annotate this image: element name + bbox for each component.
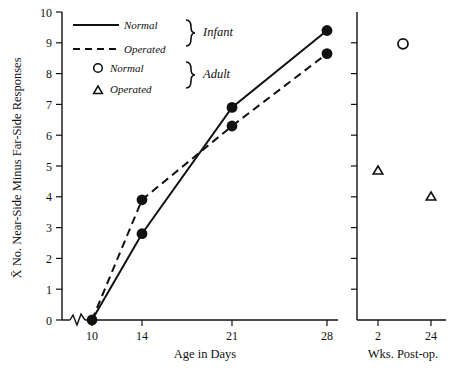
- legend-label: Operated: [110, 83, 152, 95]
- x-tick-label: 2: [375, 329, 381, 343]
- data-point: [137, 228, 148, 239]
- legend-open-circle-icon: [94, 64, 103, 73]
- data-point: [322, 48, 333, 59]
- data-point-adult-normal: [398, 39, 408, 49]
- x-tick-label: 28: [321, 329, 333, 343]
- right-panel-axes: [357, 12, 446, 320]
- x-tick-label: 24: [425, 329, 437, 343]
- data-point: [227, 121, 238, 132]
- legend-label: Normal: [123, 19, 158, 31]
- y-axis-title: X̄ No. Near-Side Minus Far-Side Response…: [10, 57, 24, 278]
- x-axis-title: Age in Days: [174, 347, 237, 361]
- chart-canvas: 10 9 8 7 6 5 4 3 2 1 0 10 14 21 28: [0, 0, 453, 370]
- x-axis-ticks: [92, 320, 327, 326]
- y-tick-label: 6: [46, 129, 52, 143]
- data-point: [322, 25, 333, 36]
- x-tick-label: 14: [136, 329, 148, 343]
- right-x-axis-ticks: [378, 320, 431, 326]
- right-x-tick-labels: 2 24: [375, 329, 437, 343]
- x-tick-label: 21: [226, 329, 238, 343]
- legend-label: Operated: [124, 43, 166, 55]
- y-tick-label: 7: [46, 98, 52, 112]
- data-point: [87, 315, 98, 326]
- x-tick-labels: 10 14 21 28: [86, 329, 333, 343]
- y-axis-ticks: [56, 12, 62, 320]
- left-panel-axes: [62, 12, 338, 325]
- legend-open-triangle-icon: [94, 86, 103, 94]
- legend-brace-icon: [186, 20, 195, 46]
- y-tick-label: 10: [40, 6, 52, 20]
- y-tick-label: 8: [46, 67, 52, 81]
- right-x-axis-title: Wks. Post-op.: [368, 347, 439, 361]
- y-tick-label: 3: [46, 221, 52, 235]
- y-tick-labels: 10 9 8 7 6 5 4 3 2 1 0: [40, 6, 52, 328]
- y-tick-label: 2: [46, 252, 52, 266]
- data-point: [227, 102, 238, 113]
- right-y-axis-ticks: [351, 43, 357, 289]
- data-point-adult-operated: [373, 166, 383, 174]
- data-point-adult-operated: [426, 192, 436, 200]
- x-tick-label: 10: [86, 329, 98, 343]
- y-tick-label: 4: [46, 190, 52, 204]
- legend-brace-icon: [186, 62, 195, 88]
- data-point: [137, 194, 148, 205]
- axis-break-zigzag: [70, 314, 85, 325]
- chart-legend: Normal Operated Infant Normal Operated A…: [73, 19, 233, 95]
- legend-group-label: Adult: [202, 67, 231, 81]
- legend-label: Normal: [109, 62, 144, 74]
- y-tick-label: 9: [46, 36, 52, 50]
- y-tick-label: 1: [46, 283, 52, 297]
- legend-group-label: Infant: [202, 25, 233, 39]
- y-tick-label: 5: [46, 160, 52, 174]
- y-tick-label: 0: [46, 314, 52, 328]
- chart-figure: 10 9 8 7 6 5 4 3 2 1 0 10 14 21 28: [0, 0, 453, 370]
